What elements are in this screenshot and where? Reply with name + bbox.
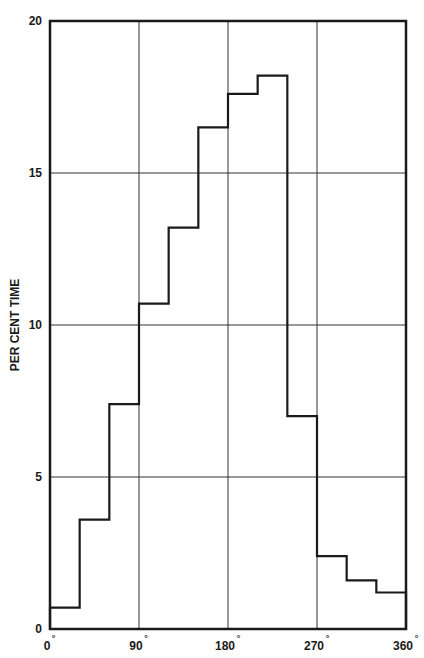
x-tick-label: 180 xyxy=(215,639,235,653)
y-tick-label: 15 xyxy=(29,166,43,180)
degree-symbol: ° xyxy=(326,633,330,643)
x-tick-label: 0 xyxy=(44,639,51,653)
degree-symbol: ° xyxy=(144,633,148,643)
x-tick-label: 360 xyxy=(393,639,413,653)
degree-symbol: ° xyxy=(52,633,56,643)
y-tick-label: 20 xyxy=(29,14,43,28)
y-tick-label: 10 xyxy=(29,318,43,332)
x-tick-label: 270 xyxy=(304,639,324,653)
x-tick-label: 90 xyxy=(129,639,143,653)
degree-symbol: ° xyxy=(415,633,419,643)
y-axis-label: PER CENT TIME xyxy=(8,279,22,372)
step-histogram-chart: 05101520 0°90°180°270°360° PER CENT TIME xyxy=(0,0,424,658)
chart-canvas: 05101520 0°90°180°270°360° PER CENT TIME xyxy=(0,0,424,658)
x-axis-tick-labels: 0°90°180°270°360° xyxy=(44,633,419,653)
y-axis-tick-labels: 05101520 xyxy=(29,14,43,636)
y-tick-label: 5 xyxy=(35,470,42,484)
degree-symbol: ° xyxy=(237,633,241,643)
y-tick-label: 0 xyxy=(35,622,42,636)
